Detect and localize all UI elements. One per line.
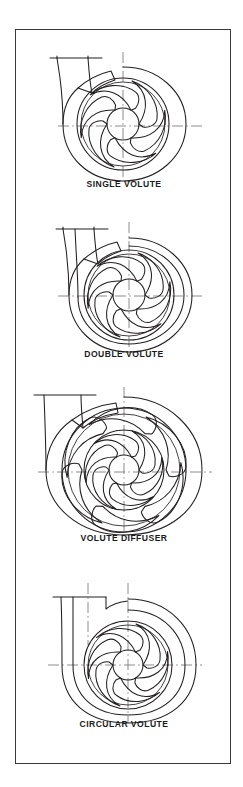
figure-root: SINGLE VOLUTE [0, 0, 243, 787]
caption-single-volute: SINGLE VOLUTE [16, 180, 232, 189]
volute-cutwater [84, 242, 121, 264]
single-volute-diagram [16, 34, 232, 184]
circular-volute-diagram [16, 573, 232, 728]
panel-volute-diffuser: VOLUTE DIFFUSER [16, 375, 232, 543]
circular-volute-drawing [48, 583, 202, 723]
nozzle-left-wall [57, 58, 63, 124]
nozzle-right-wall [88, 58, 92, 93]
double-volute-drawing [56, 222, 202, 352]
nozzle-right-wall [94, 229, 98, 264]
volute-splitter-rib [78, 246, 184, 344]
nozzle-splitter-wall [75, 229, 78, 297]
double-volute-diagram [16, 204, 232, 354]
volute-diffuser-drawing [34, 387, 212, 550]
caption-double-volute: DOUBLE VOLUTE [16, 350, 232, 359]
panel-single-volute: SINGLE VOLUTE [16, 34, 232, 189]
panel-circular-volute: CIRCULAR VOLUTE [16, 573, 232, 729]
casing-outer-wall [61, 597, 196, 723]
nozzle-right-wall [106, 597, 128, 609]
nozzle-left-wall [63, 229, 69, 295]
nozzle-left-wall [44, 395, 46, 470]
single-volute-drawing [50, 52, 202, 181]
caption-circular-volute: CIRCULAR VOLUTE [16, 720, 232, 729]
caption-volute-diffuser: VOLUTE DIFFUSER [16, 534, 232, 543]
volute-diffuser-diagram [16, 375, 232, 540]
panel-double-volute: DOUBLE VOLUTE [16, 204, 232, 359]
figure-border: SINGLE VOLUTE [15, 29, 231, 764]
